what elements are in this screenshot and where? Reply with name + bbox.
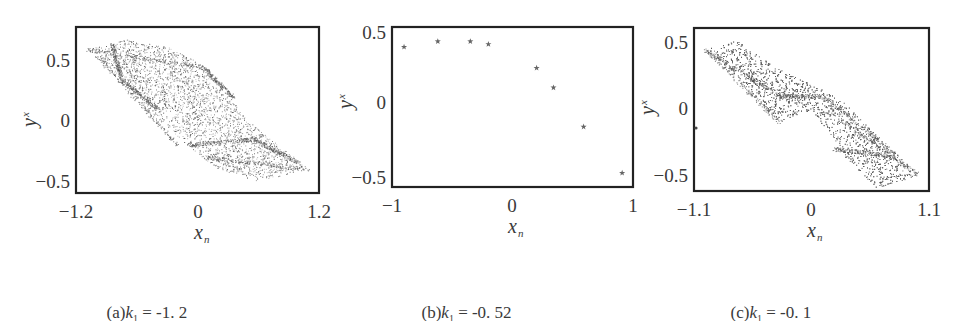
star-marker <box>619 170 625 176</box>
y-tick-label: 0 <box>377 92 387 113</box>
svg-text:x: x <box>335 94 347 100</box>
y-axis-label: yx <box>334 94 357 111</box>
x-tick-label: 0 <box>193 201 203 222</box>
data-points <box>401 38 625 175</box>
caption-prefix: (c) <box>731 303 750 321</box>
y-tick-label: 0.5 <box>46 50 70 71</box>
x-tick-label: 0 <box>806 199 816 220</box>
svg-text:y: y <box>18 118 41 129</box>
figure-canvas: −1.201.20.50−0.5xnyx−1010.50−0.5xnyx−1.1… <box>0 0 960 321</box>
star-marker <box>435 38 441 44</box>
plot-frame <box>392 27 633 187</box>
x-axis-label-sub: n <box>817 231 823 243</box>
star-marker <box>534 65 540 71</box>
caption-c: (c)k1 = -0. 1 <box>722 283 811 321</box>
caption-prefix: (a) <box>107 303 126 321</box>
plot-frame <box>694 28 929 191</box>
data-points <box>86 40 310 182</box>
star-marker <box>485 41 491 47</box>
y-tick-label: 0 <box>679 98 689 119</box>
caption-var: k <box>749 303 757 321</box>
caption-var: k <box>441 303 449 321</box>
star-marker <box>401 44 407 50</box>
svg-text:x: x <box>19 112 31 118</box>
svg-text:x: x <box>637 100 649 106</box>
panel-a: −1.201.20.50−0.5xnyx <box>18 27 331 245</box>
svg-text:y: y <box>334 100 357 111</box>
y-tick-label: 0 <box>61 110 71 131</box>
caption-value: = -1. 2 <box>138 303 187 321</box>
star-marker <box>467 38 473 44</box>
caption-value: = -0. 1 <box>762 303 811 321</box>
y-tick-label: −0.5 <box>36 171 70 192</box>
stray-point <box>694 126 697 129</box>
x-tick-label: −1 <box>382 195 402 216</box>
y-axis-label: yx <box>636 100 659 117</box>
svg-text:y: y <box>636 106 659 117</box>
panel-c: −1.101.10.50−0.5xnyx <box>636 28 941 243</box>
star-marker <box>550 84 556 90</box>
caption-value: = -0. 52 <box>454 303 512 321</box>
y-tick-label: 0.5 <box>664 32 688 53</box>
y-tick-label: 0.5 <box>362 22 386 43</box>
x-tick-label: 0 <box>507 195 517 216</box>
x-tick-label: −1.1 <box>677 199 711 220</box>
x-axis-label-sub: n <box>518 227 524 239</box>
x-tick-label: 1.2 <box>307 201 331 222</box>
x-axis-label-sub: n <box>204 233 210 245</box>
y-tick-label: −0.5 <box>654 165 688 186</box>
caption-var: k <box>125 303 133 321</box>
caption-b: (b)k1 = -0. 52 <box>413 283 512 321</box>
x-tick-label: 1.1 <box>917 199 941 220</box>
x-axis-label: x <box>806 219 816 241</box>
panel-b: −1010.50−0.5xnyx <box>334 22 638 239</box>
x-tick-label: 1 <box>628 195 638 216</box>
data-points <box>704 42 919 188</box>
x-axis-label: x <box>507 215 517 237</box>
caption-a: (a)k1 = -1. 2 <box>98 283 187 321</box>
caption-prefix: (b) <box>422 303 442 321</box>
x-axis-label: x <box>193 221 203 243</box>
y-tick-label: −0.5 <box>352 167 386 188</box>
y-axis-label: yx <box>18 112 41 129</box>
x-tick-label: −1.2 <box>59 201 93 222</box>
star-marker <box>581 124 587 130</box>
